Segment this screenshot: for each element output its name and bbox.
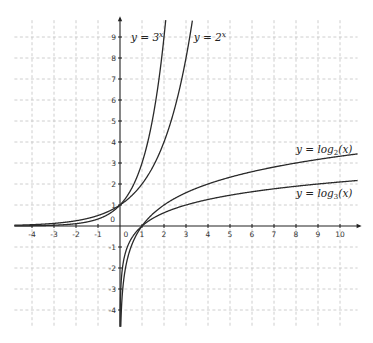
curve-label-argument: (x) — [338, 187, 352, 199]
y-tick-label: 7 — [111, 75, 116, 84]
x-tick-label: -3 — [50, 230, 58, 239]
y-tick-label: 9 — [111, 33, 116, 42]
x-tick-label: 9 — [316, 230, 321, 239]
curve-label-main: y = log — [295, 187, 334, 199]
curve-2x — [14, 21, 192, 226]
grid — [14, 20, 357, 327]
function-plot: -4-3-2-1012345678910-4-3-2-10123456789 y… — [0, 0, 373, 343]
axes — [14, 16, 361, 327]
x-tick-label: 4 — [206, 230, 211, 239]
ticks: -4-3-2-1012345678910-4-3-2-10123456789 — [28, 33, 345, 315]
x-tick-label: 6 — [250, 230, 255, 239]
y-tick-label: 5 — [111, 117, 116, 126]
curve-label-main: y = 2 — [193, 31, 222, 43]
curve-label-argument: (x) — [338, 143, 352, 155]
y-tick-label: 2 — [111, 180, 116, 189]
x-tick-label: 8 — [294, 230, 299, 239]
x-tick-label: 0 — [124, 230, 129, 239]
x-tick-label: -1 — [94, 230, 102, 239]
y-tick-label: -3 — [109, 285, 117, 294]
curve-labels: y = 3xy = 2xy = log2(x)y = log3(x) — [130, 30, 352, 202]
curve-label-main: y = log — [295, 143, 334, 155]
curve-3x — [14, 20, 165, 226]
y-tick-label: 6 — [111, 96, 116, 105]
y-axis-arrow-icon — [118, 16, 122, 21]
x-tick-label: -2 — [72, 230, 80, 239]
y-tick-label: 0 — [110, 215, 115, 224]
y-tick-label: 3 — [111, 159, 116, 168]
x-tick-label: -4 — [28, 230, 36, 239]
y-tick-label: -2 — [109, 264, 117, 273]
curve-label: y = log3(x) — [295, 187, 352, 202]
x-tick-label: 1 — [140, 230, 145, 239]
x-tick-label: 3 — [184, 230, 189, 239]
x-tick-label: 5 — [228, 230, 233, 239]
x-axis-arrow-icon — [357, 224, 362, 228]
y-tick-label: 8 — [111, 54, 116, 63]
y-tick-label: -1 — [109, 243, 117, 252]
x-tick-label: 10 — [335, 230, 345, 239]
curve-label: y = 3x — [130, 30, 164, 43]
curve-log3x — [120, 181, 357, 327]
x-tick-label: 2 — [162, 230, 167, 239]
curve-log2x — [121, 154, 358, 327]
curve-label: y = 2x — [193, 30, 227, 43]
y-tick-label: -4 — [109, 306, 117, 315]
curve-label-main: y = 3 — [130, 31, 159, 43]
y-tick-label: 4 — [111, 138, 116, 147]
x-tick-label: 7 — [272, 230, 277, 239]
